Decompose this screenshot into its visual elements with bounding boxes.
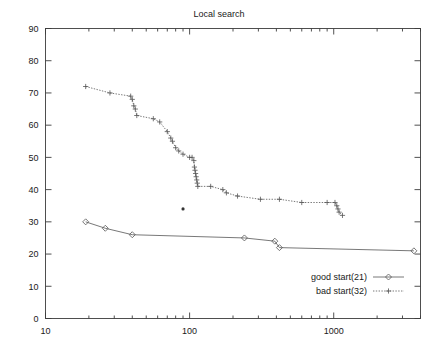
y-tick-label: 20 — [28, 249, 38, 259]
y-tick-label: 30 — [28, 217, 38, 227]
legend-entry: good start(21) — [311, 272, 404, 282]
y-tick-label: 70 — [28, 88, 38, 98]
x-tick-label: 1000 — [324, 326, 344, 336]
y-tick-label: 90 — [28, 24, 38, 34]
isolated-point — [181, 207, 184, 210]
series-line — [86, 222, 414, 251]
y-axis-tick-labels: 0102030405060708090 — [28, 24, 38, 324]
y-tick-label: 80 — [28, 56, 38, 66]
x-axis-tick-labels: 101001000 — [40, 326, 343, 336]
legend-entry: bad start(32) — [316, 286, 404, 296]
y-tick-label: 40 — [28, 185, 38, 195]
legend-label: good start(21) — [311, 272, 367, 282]
data-point-marker — [181, 207, 184, 210]
chart-container: 101001000 0102030405060708090 good start… — [0, 0, 439, 352]
y-tick-label: 60 — [28, 120, 38, 130]
x-tick-label: 100 — [182, 326, 197, 336]
data-series-group — [83, 84, 417, 254]
y-tick-label: 0 — [33, 314, 38, 324]
y-tick-label: 50 — [28, 153, 38, 163]
local-search-line-chart: 101001000 0102030405060708090 good start… — [0, 0, 439, 352]
series-good-start — [83, 219, 417, 254]
y-tick-label: 10 — [28, 282, 38, 292]
series-bad-start — [83, 84, 345, 218]
series-line — [86, 87, 343, 216]
chart-legend: good start(21)bad start(32) — [311, 272, 404, 296]
annotation-group — [181, 207, 184, 210]
x-tick-label: 10 — [40, 326, 50, 336]
chart-title: Local search — [193, 9, 244, 19]
legend-label: bad start(32) — [316, 286, 367, 296]
